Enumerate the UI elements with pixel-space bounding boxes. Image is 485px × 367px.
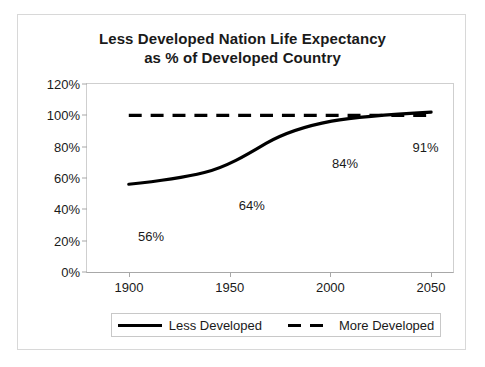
x-tick-label-1950: 1950 (215, 280, 244, 295)
chart-title: Less Developed Nation Life Expectancy as… (18, 29, 467, 67)
chart-container: Less Developed Nation Life Expectancy as… (17, 14, 466, 350)
y-tick-label-100: 100% (47, 108, 80, 123)
y-tick-label-20: 20% (54, 233, 80, 248)
legend-line-solid-icon (118, 324, 162, 327)
series-line-less-developed (129, 112, 431, 184)
legend-entry-more-developed[interactable]: More Developed (288, 318, 434, 333)
series-canvas (87, 84, 453, 272)
x-tick-label-1900: 1900 (115, 280, 144, 295)
legend-entry-less-developed[interactable]: Less Developed (118, 318, 262, 333)
data-label-1900: 56% (138, 229, 164, 244)
y-tick-label-80: 80% (54, 139, 80, 154)
y-tick-label-60: 60% (54, 171, 80, 186)
legend-label-more-developed: More Developed (339, 318, 434, 333)
chart-title-line-2: as % of Developed Country (18, 48, 467, 67)
x-tick-label-2050: 2050 (417, 280, 446, 295)
legend-line-dashed-icon (288, 324, 332, 327)
x-tick-mark-2050 (431, 272, 432, 277)
y-tick-label-0: 0% (61, 265, 80, 280)
chart-title-line-1: Less Developed Nation Life Expectancy (18, 29, 467, 48)
data-label-1950: 64% (239, 198, 265, 213)
plot-area: 120% 100% 80% 60% 40% 20% 0% 1900 1950 2… (86, 83, 454, 273)
chart-legend: Less Developed More Developed (111, 313, 441, 337)
x-tick-mark-2000 (330, 272, 331, 277)
data-label-2000: 84% (332, 155, 358, 170)
x-tick-mark-1900 (129, 272, 130, 277)
legend-label-less-developed: Less Developed (169, 318, 262, 333)
x-tick-label-2000: 2000 (316, 280, 345, 295)
x-tick-mark-1950 (230, 272, 231, 277)
y-tick-label-120: 120% (47, 77, 80, 92)
data-label-2050: 91% (413, 139, 439, 154)
y-tick-label-40: 40% (54, 202, 80, 217)
